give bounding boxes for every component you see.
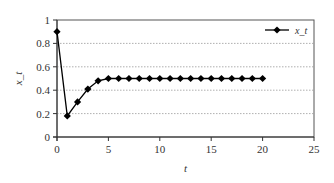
x-tick-label: 15 (206, 143, 218, 155)
data-point-diamond (166, 75, 173, 82)
x-tick-label: 20 (257, 143, 269, 155)
data-point-diamond (125, 75, 132, 82)
legend-label: x_t (294, 25, 307, 36)
legend-marker-icon (273, 26, 280, 33)
y-tick-label: 0.4 (36, 84, 50, 96)
x-tick-label: 25 (309, 143, 321, 155)
data-point-diamond (208, 75, 215, 82)
y-tick-label: 0.8 (36, 37, 50, 49)
data-point-diamond (115, 75, 122, 82)
y-axis-label: x_t (12, 71, 24, 86)
x-tick-label: 10 (154, 143, 166, 155)
data-point-diamond (218, 75, 225, 82)
line-chart: 00.20.40.60.810510152025tx_tx_t (0, 0, 334, 183)
chart-canvas: 00.20.40.60.810510152025tx_tx_t (0, 0, 334, 183)
x-tick-label: 0 (54, 143, 60, 155)
data-point-diamond (259, 75, 266, 82)
series-line (57, 32, 263, 116)
x-axis-label: t (184, 162, 188, 174)
data-point-diamond (197, 75, 204, 82)
x-tick-label: 5 (106, 143, 112, 155)
data-point-diamond (146, 75, 153, 82)
data-point-diamond (249, 75, 256, 82)
data-point-diamond (177, 75, 184, 82)
data-point-diamond (136, 75, 143, 82)
data-point-diamond (53, 28, 60, 35)
y-tick-label: 0 (45, 131, 51, 143)
data-point-diamond (156, 75, 163, 82)
data-point-diamond (238, 75, 245, 82)
y-tick-label: 0.6 (36, 61, 50, 73)
data-point-diamond (228, 75, 235, 82)
data-point-diamond (187, 75, 194, 82)
y-tick-label: 0.2 (36, 108, 50, 120)
y-tick-label: 1 (45, 14, 51, 26)
data-point-diamond (105, 75, 112, 82)
